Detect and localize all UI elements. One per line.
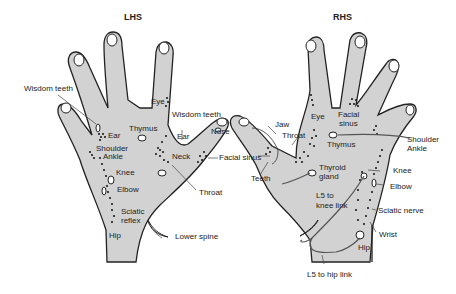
label-sciatic: Sciatic (121, 207, 145, 216)
label-wisdom-teeth-2: Wisdom teeth (172, 110, 221, 119)
label-eye-r: Eye (311, 112, 325, 121)
title-rhs: RHS (333, 12, 352, 22)
label-ankle: Ankle (103, 152, 123, 161)
label-reflex: reflex (121, 216, 141, 225)
left-hand (58, 32, 228, 262)
label-knee: Knee (116, 168, 135, 177)
label-thymus: Thymus (129, 124, 157, 133)
label-wisdom-teeth: Wisdom teeth (24, 84, 73, 93)
label-thymus-r: Thymus (327, 140, 355, 149)
right-hand (230, 33, 416, 262)
label-thyroid: Thyroid (319, 163, 346, 172)
label-elbow: Elbow (117, 185, 139, 194)
label-ear: Ear (108, 131, 120, 140)
label-teeth: Teeth (251, 174, 271, 183)
label-l5-knee-2: knee link (316, 201, 348, 210)
label-sciatic-nerve: Sciatic nerve (378, 206, 424, 215)
label-facial-sinus: Facial sinus (219, 153, 261, 162)
label-sinus: sinus (339, 119, 358, 128)
label-throat-r: Throat (282, 131, 305, 140)
label-facial: Facial (338, 110, 359, 119)
label-eye: Eye (151, 97, 165, 106)
hands-diagram (0, 0, 456, 294)
label-ear-2: Ear (177, 132, 189, 141)
label-lower-spine: Lower spine (175, 232, 218, 241)
label-nose: Nose (211, 127, 230, 136)
label-shoulder-r: Shoulder (407, 135, 439, 144)
label-gland: gland (319, 172, 339, 181)
label-knee-r: Knee (393, 166, 412, 175)
label-jaw: Jaw (275, 120, 289, 129)
title-lhs: LHS (124, 12, 142, 22)
label-ankle-r: Ankle (407, 144, 427, 153)
label-wrist: Wrist (379, 230, 397, 239)
label-hip: Hip (109, 231, 121, 240)
label-l5-knee-1: L5 to (316, 191, 334, 200)
label-neck: Neck (172, 152, 190, 161)
label-l5-hip: L5 to hip link (307, 270, 352, 279)
label-elbow-r: Elbow (390, 182, 412, 191)
label-hip-r: Hip (358, 243, 370, 252)
label-throat: Throat (199, 188, 222, 197)
